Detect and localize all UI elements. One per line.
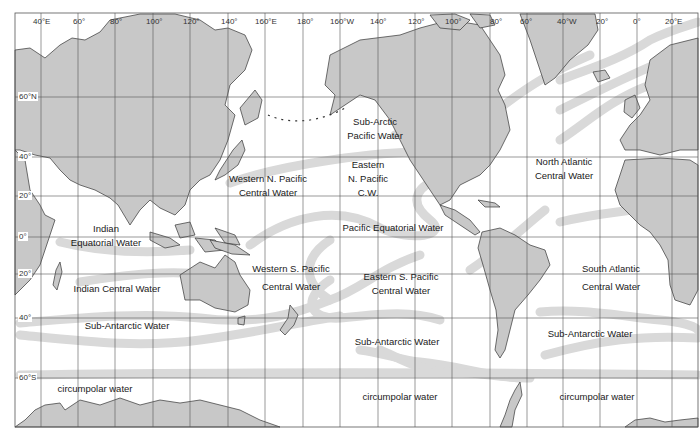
lon-tick: 0° <box>633 17 641 26</box>
lat-tick: 0° <box>18 232 28 241</box>
lon-tick: 60° <box>520 17 532 26</box>
lon-tick: 140° <box>221 17 238 26</box>
label-western-s-pacific: Western S. Pacific Central Water <box>252 262 329 294</box>
australia <box>180 255 250 312</box>
label-western-n-pacific: Western N. Pacific Central Water <box>229 172 307 200</box>
label-south-atlantic: South Atlantic Central Water <box>582 262 640 294</box>
lon-tick: 160°E <box>255 17 277 26</box>
lon-tick: 60° <box>73 17 85 26</box>
lon-tick: 80° <box>490 17 502 26</box>
kamchatka <box>240 90 262 125</box>
madagascar <box>53 262 62 290</box>
central-america <box>440 205 480 235</box>
lon-tick: 120° <box>183 17 200 26</box>
lat-tick: 60°N <box>18 92 38 101</box>
arctic-islands <box>430 14 495 30</box>
label-indian-equatorial: Indian Equatorial Water <box>71 222 141 250</box>
label-eastern-s-pacific: Eastern S. Pacific Central Water <box>364 270 439 298</box>
label-sub-antarctic-indian: Sub-Antarctic Water <box>85 319 170 333</box>
lat-tick: 40° <box>18 152 32 161</box>
antarctica-east <box>625 418 698 427</box>
label-indian-central: Indian Central Water <box>74 282 161 296</box>
lon-tick: 160°W <box>330 17 354 26</box>
label-sub-antarctic-atlantic: Sub-Antarctic Water <box>548 327 633 341</box>
lat-tick: 20° <box>18 269 32 278</box>
lon-tick: 120° <box>408 17 425 26</box>
lat-tick: 60°S <box>18 373 37 382</box>
label-eastern-n-pacific: Eastern N. Pacific C.W. <box>348 158 388 200</box>
iceland <box>593 70 610 82</box>
label-sub-antarctic-pacific: Sub-Antarctic Water <box>355 335 440 349</box>
label-circumpolar-atlantic: circumpolar water <box>560 390 635 404</box>
lon-tick: 40°E <box>33 17 50 26</box>
eurasia <box>15 14 252 225</box>
lon-tick: 100° <box>445 17 462 26</box>
tasmania <box>238 316 245 325</box>
lon-tick: 40°W <box>557 17 577 26</box>
label-pacific-equatorial: Pacific Equatorial Water <box>342 221 443 235</box>
label-north-atlantic: North Atlantic Central Water <box>535 155 593 183</box>
south-america <box>478 228 550 358</box>
label-circumpolar-indian: circumpolar water <box>58 382 133 396</box>
world-map <box>0 0 700 440</box>
lat-tick: 40° <box>18 313 32 322</box>
antarctica-west <box>15 398 280 427</box>
antarctic-peninsula <box>500 382 522 427</box>
lat-tick: 20° <box>18 191 32 200</box>
lon-tick: 100° <box>146 17 163 26</box>
caribbean <box>478 200 500 207</box>
lon-tick: 20° <box>596 17 608 26</box>
lon-tick: 80° <box>110 17 122 26</box>
lon-tick: 140° <box>370 17 387 26</box>
label-sub-arctic-pacific: Sub-Arctic Pacific Water <box>347 115 403 143</box>
lon-tick: 20°E <box>665 17 682 26</box>
lon-tick: 180° <box>297 17 314 26</box>
label-circumpolar-pacific: circumpolar water <box>363 390 438 404</box>
